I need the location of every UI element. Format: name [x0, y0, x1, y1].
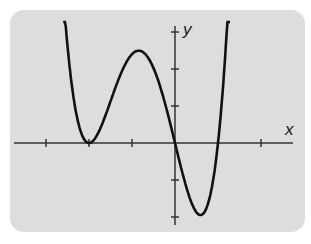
curve	[63, 22, 230, 215]
y-axis-label: y	[183, 20, 192, 40]
axes	[14, 26, 293, 225]
chart-svg	[0, 0, 311, 244]
x-axis-label: x	[285, 120, 294, 140]
